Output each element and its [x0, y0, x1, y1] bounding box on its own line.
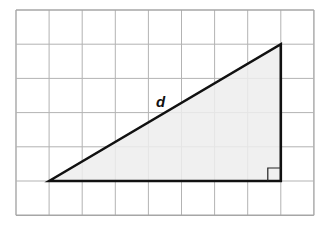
hypotenuse-label: d — [156, 93, 166, 110]
grid-diagram: d — [0, 0, 334, 233]
